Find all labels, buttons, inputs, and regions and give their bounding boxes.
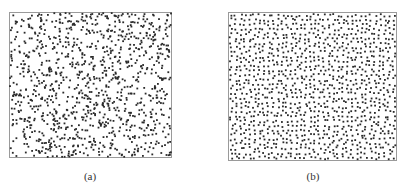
caption-b: (b) [293,170,333,182]
panel-a-random-points [9,12,172,158]
data-points [9,12,172,158]
scatter-plot-uniform [228,12,397,161]
data-points [229,13,396,160]
caption-a: (a) [70,170,110,182]
panel-b-uniform-points [228,12,397,161]
scatter-plot-random [9,12,172,158]
